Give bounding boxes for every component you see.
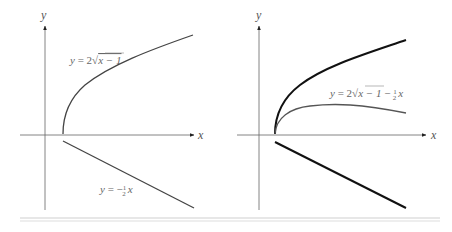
right-x-axis-label: x — [430, 128, 437, 142]
left-negative-half-x-line — [63, 141, 194, 208]
left-sqrt-curve — [63, 35, 193, 134]
left-panel: y x y = 2√x − 1 y = −12x — [20, 8, 204, 210]
left-x-axis-label: x — [197, 128, 204, 142]
right-negative-half-x-line — [275, 142, 406, 208]
bottom-rule — [20, 218, 440, 221]
left-y-axis-label: y — [40, 8, 47, 22]
right-curve-label: y = 2√x − 1 − 12x — [329, 87, 403, 102]
figure-canvas: y x y = 2√x − 1 y = −12x y x y = 2√x − 1… — [0, 0, 452, 232]
right-y-axis-label: y — [255, 8, 262, 22]
left-curve-label: y = 2√x − 1 — [69, 54, 121, 66]
left-line-label: y = −12x — [99, 183, 133, 198]
right-panel: y x y = 2√x − 1 − 12x — [237, 8, 437, 210]
right-difference-curve — [275, 104, 406, 134]
